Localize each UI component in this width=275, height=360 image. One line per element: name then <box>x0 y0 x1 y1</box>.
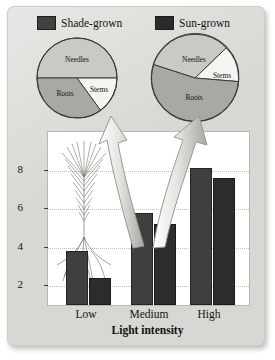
bar-medium-sun-grown <box>154 224 176 305</box>
x-tick-label-low: Low <box>61 308 111 320</box>
y-tick-label-2: 2 <box>1 278 23 290</box>
x-tick-label-medium: Medium <box>121 308 177 320</box>
legend-item-sun-grown: Sun-grown <box>155 15 230 31</box>
y-tick-label-6: 6 <box>1 201 23 213</box>
pie-chart-sun-grown: Needles Roots Stems <box>150 33 240 123</box>
bar-low-sun-grown <box>89 278 111 305</box>
square-swatch-icon <box>37 16 56 30</box>
pie-label-roots: Roots <box>56 89 73 98</box>
pie-chart-shade-grown: Needles Roots Stems <box>35 36 119 120</box>
bar-high-sun-grown <box>213 178 235 305</box>
bar-medium-shade-grown <box>131 213 153 305</box>
pie-shade-svg: Needles Roots Stems <box>35 36 119 120</box>
legend-label-shade-grown: Shade-grown <box>61 17 122 29</box>
x-axis-title: Light intensity <box>47 324 248 336</box>
y-tick-mark-6 <box>44 208 48 209</box>
plot-inner <box>48 132 249 305</box>
x-tick-label-high: High <box>186 308 232 320</box>
figure-root: Shade-grown Sun-grown Needles Roots Stem… <box>0 0 275 360</box>
y-tick-mark-8 <box>44 170 48 171</box>
y-tick-mark-4 <box>44 247 48 248</box>
legend-item-shade-grown: Shade-grown <box>37 15 122 31</box>
pie-sun-svg: Needles Roots Stems <box>150 33 240 123</box>
pie-label-stems: Stems <box>90 85 108 94</box>
square-swatch-icon <box>155 16 174 30</box>
pie-label-roots: Roots <box>185 93 202 102</box>
pie-label-needles: Needles <box>65 55 89 64</box>
legend-label-sun-grown: Sun-grown <box>179 17 230 29</box>
y-tick-label-8: 8 <box>1 163 23 175</box>
bar-low-shade-grown <box>66 251 88 305</box>
gridline-8 <box>48 171 249 172</box>
pie-label-needles: Needles <box>182 55 206 64</box>
y-tick-label-4: 4 <box>1 240 23 252</box>
bar-high-shade-grown <box>190 168 212 305</box>
bar-chart-plot-area <box>47 131 250 306</box>
legend: Shade-grown Sun-grown <box>7 6 263 32</box>
y-tick-mark-2 <box>44 285 48 286</box>
pie-label-stems: Stems <box>213 71 231 80</box>
